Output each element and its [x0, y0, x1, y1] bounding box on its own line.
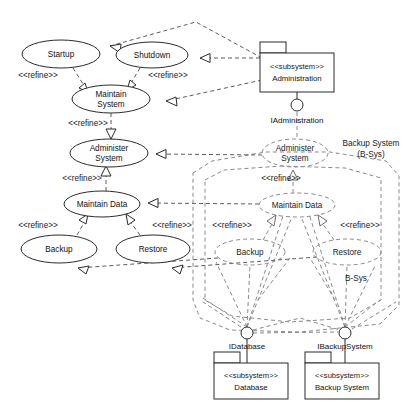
- use-case-shutdown-label: Shutdown: [134, 51, 171, 60]
- boundary-backup-system-label-line2: (B-Sys): [357, 150, 385, 159]
- boundary-label-backup-system: Backup System (B-Sys): [343, 139, 400, 159]
- use-case-backup-bsys-label: Backup: [236, 248, 264, 257]
- use-case-maintain-data-label: Maintain Data: [77, 200, 128, 209]
- use-case-maintain-data-bsys[interactable]: Maintain Data: [259, 193, 335, 217]
- boundary-bsys-label: B-Sys: [345, 274, 367, 283]
- interface-ibackupsystem[interactable]: IBackupSystem: [317, 327, 373, 351]
- use-case-maintain-data-bsys-label: Maintain Data: [272, 201, 323, 210]
- subsystem-backup-system[interactable]: <<subsystem>> Backup System: [305, 352, 379, 399]
- refine-label-maintain-system: <<refine>>: [68, 119, 108, 128]
- use-case-maintain-data[interactable]: Maintain Data: [64, 191, 140, 217]
- use-case-administer-system-bsys[interactable]: Administer System: [262, 139, 328, 167]
- use-case-administer-system-bsys-label-line2: System: [281, 154, 308, 163]
- use-case-backup-bsys[interactable]: Backup: [215, 239, 285, 265]
- use-case-restore-bsys-label: Restore: [333, 248, 362, 257]
- interface-idatabase-label: IDatabase: [229, 342, 266, 351]
- refine-label-restore-bsys: <<refine>>: [340, 221, 380, 230]
- diagram-canvas: Startup Shutdown Maintain System Adminis…: [0, 0, 410, 412]
- subsystem-database-stereotype: <<subsystem>>: [224, 371, 279, 380]
- use-case-maintain-system-label-line1: Maintain: [96, 90, 127, 99]
- subsystem-database[interactable]: <<subsystem>> Database: [214, 352, 288, 399]
- refine-label-startup: <<refine>>: [18, 71, 58, 80]
- refine-label-backup: <<refine>>: [18, 221, 58, 230]
- refine-label-administer-system-bsys: <<refine>>: [261, 174, 301, 183]
- use-case-administer-system-label-line2: System: [95, 154, 122, 163]
- subsystem-database-name: Database: [234, 383, 267, 392]
- interface-ibackupsystem-label: IBackupSystem: [317, 342, 373, 351]
- use-case-backup[interactable]: Backup: [21, 235, 97, 263]
- subsystem-administration-stereotype: <<subsystem>>: [270, 62, 325, 71]
- use-case-shutdown[interactable]: Shutdown: [116, 42, 188, 68]
- use-case-startup[interactable]: Startup: [22, 40, 100, 68]
- use-case-restore-bsys[interactable]: Restore: [313, 239, 381, 265]
- use-case-restore[interactable]: Restore: [116, 235, 190, 263]
- use-case-administer-system-label-line1: Administer: [90, 144, 129, 153]
- use-case-administer-system-bsys-label-line1: Administer: [276, 144, 315, 153]
- interface-iadministration-label: IAdministration: [271, 116, 324, 125]
- refine-label-restore: <<refine>>: [152, 221, 192, 230]
- refine-label-administer-system: <<refine>>: [62, 174, 102, 183]
- boundary-label-bsys: B-Sys: [345, 274, 367, 283]
- subsystem-administration[interactable]: <<subsystem>> Administration: [260, 42, 334, 92]
- use-case-restore-label: Restore: [139, 245, 168, 254]
- refine-label-shutdown: <<refine>>: [148, 71, 188, 80]
- use-case-maintain-system-label-line2: System: [97, 100, 124, 109]
- boundary-backup-system-label-line1: Backup System: [343, 139, 400, 148]
- use-case-administer-system[interactable]: Administer System: [70, 139, 148, 167]
- uml-use-case-diagram: Startup Shutdown Maintain System Adminis…: [0, 0, 410, 412]
- subsystem-administration-name: Administration: [272, 74, 321, 83]
- subsystem-backup-system-name: Backup System: [315, 383, 369, 392]
- use-case-backup-label: Backup: [45, 245, 73, 254]
- subsystem-backup-system-stereotype: <<subsystem>>: [315, 371, 370, 380]
- refine-label-backup-bsys: <<refine>>: [212, 221, 252, 230]
- use-case-maintain-system[interactable]: Maintain System: [72, 85, 150, 113]
- use-case-startup-label: Startup: [48, 50, 75, 59]
